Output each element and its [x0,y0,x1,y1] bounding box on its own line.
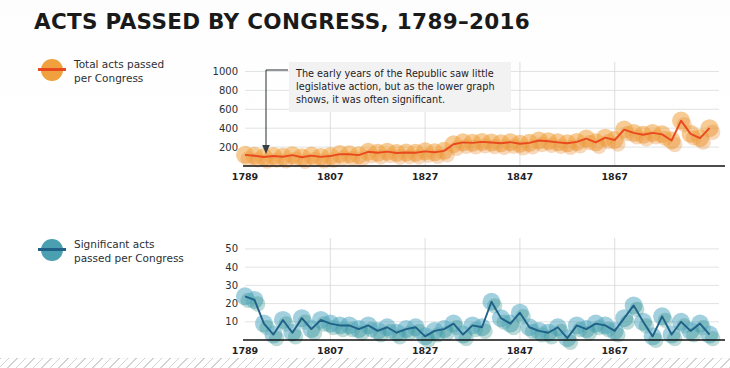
legend-marker-total-icon [40,58,64,82]
y-tick-label: 200 [219,142,238,153]
x-tick-label: 1867 [601,345,627,356]
annotation-text: The early years of the Republic saw litt… [296,67,504,106]
down-arrow-icon [258,66,318,161]
legend-marker-significant-icon [40,238,64,262]
y-tick-label: 1000 [213,66,238,77]
x-tick-label: 1807 [317,345,343,356]
y-tick-label: 400 [219,123,238,134]
x-tick-label: 1789 [232,345,258,356]
x-tick-label: 1807 [317,171,343,182]
y-tick-label: 10 [225,316,238,327]
x-tick-label: 1789 [232,171,258,182]
chart-significant-acts-svg: 102030405017891807182718471867 [205,228,725,358]
perforated-page-edge [0,358,730,368]
y-tick-label: 40 [225,262,238,273]
page-title: ACTS PASSED BY CONGRESS, 1789–2016 [34,9,530,34]
x-tick-label: 1847 [507,171,533,182]
legend-significant-acts: Significant acts passed per Congress [40,237,184,265]
annotation-callout: The early years of the Republic saw litt… [289,62,511,112]
x-tick-label: 1847 [507,345,533,356]
x-tick-label: 1867 [601,171,627,182]
y-tick-label: 30 [225,280,238,291]
x-tick-label: 1827 [412,171,438,182]
chart-significant-acts: 102030405017891807182718471867 [205,228,725,358]
legend-label-total: Total acts passed per Congress [74,57,164,85]
legend-label-significant: Significant acts passed per Congress [74,237,184,265]
y-tick-label: 600 [219,104,238,115]
y-tick-label: 50 [225,243,238,254]
y-tick-label: 800 [219,85,238,96]
y-tick-label: 20 [225,298,238,309]
legend-total-acts: Total acts passed per Congress [40,57,164,85]
